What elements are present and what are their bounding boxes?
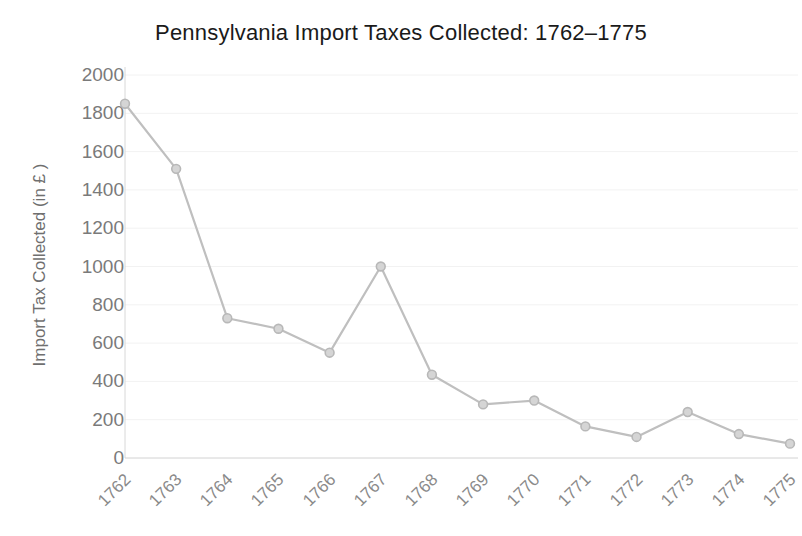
chart-container: Pennsylvania Import Taxes Collected: 176… xyxy=(0,0,802,536)
x-tick-label-1774: 1774 xyxy=(708,470,749,511)
x-tick-label-1771: 1771 xyxy=(555,470,596,511)
x-tick-label-1764: 1764 xyxy=(197,470,238,511)
x-tick-label-1765: 1765 xyxy=(248,470,289,511)
x-tick-label-1769: 1769 xyxy=(452,470,493,511)
x-tick-label-1772: 1772 xyxy=(606,470,647,511)
x-tick-label-1766: 1766 xyxy=(299,470,340,511)
x-tick-label-1775: 1775 xyxy=(759,470,800,511)
x-tick-label-1768: 1768 xyxy=(401,470,442,511)
x-tick-label-1773: 1773 xyxy=(657,470,698,511)
x-axis-tick-labels: 1762176317641765176617671768176917701771… xyxy=(0,0,802,536)
x-tick-label-1762: 1762 xyxy=(94,470,135,511)
x-tick-label-1770: 1770 xyxy=(503,470,544,511)
x-tick-label-1767: 1767 xyxy=(350,470,391,511)
x-tick-label-1763: 1763 xyxy=(145,470,186,511)
